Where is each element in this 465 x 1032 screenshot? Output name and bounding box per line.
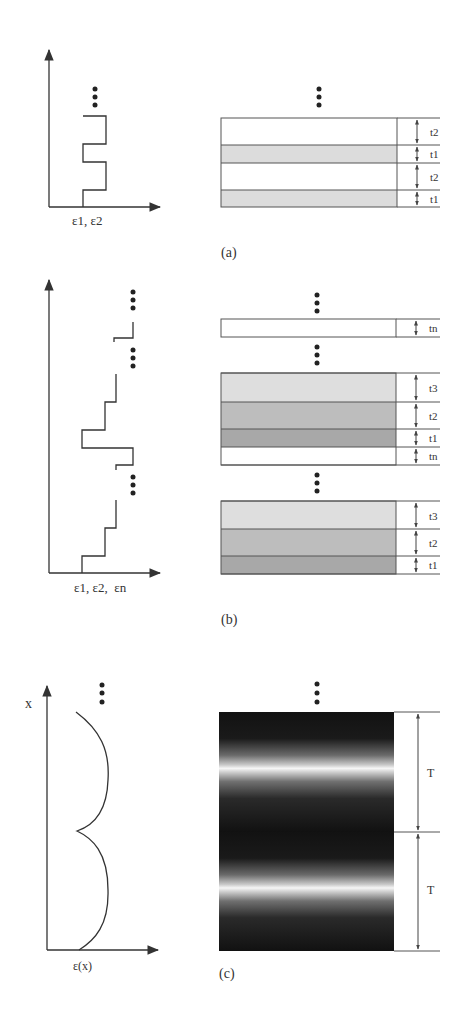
thickness-label: t2 [430, 171, 439, 183]
permittivity-curve [76, 712, 108, 950]
layer-t1 [221, 429, 396, 447]
panel-b-x-axis-label: ε1, ε2, εn [74, 580, 127, 595]
step-profile-middle [82, 374, 133, 470]
thickness-label: t1 [430, 148, 439, 160]
layer-t2 [221, 402, 396, 429]
layer-t1 [221, 556, 396, 574]
step-profile-top [114, 322, 133, 342]
ellipsis-icon [131, 290, 136, 311]
figure-canvas: ε1, ε2 [0, 0, 465, 1032]
ellipsis-icon [317, 87, 322, 108]
caption-a: (a) [221, 245, 237, 261]
thickness-label: tn [429, 450, 438, 462]
layer-t3 [221, 373, 396, 402]
panel-b-layer-stack: tn t3 t2 t1 tn t3 t2 t1 [221, 319, 440, 574]
panel-c: x ε(x) T T [25, 682, 440, 974]
thickness-label: t3 [429, 382, 438, 394]
ellipsis-icon [315, 473, 320, 494]
period-label: T [427, 766, 435, 780]
ellipsis-icon [131, 348, 136, 369]
panel-c-continuous-plot [47, 686, 158, 950]
caption-b: (b) [221, 612, 237, 628]
ellipsis-icon [315, 682, 320, 705]
layer-t2 [221, 529, 396, 556]
panel-b: ε1, ε2, εn [49, 280, 440, 595]
thickness-label: t3 [429, 510, 438, 522]
thickness-label: t2 [430, 126, 439, 138]
layer-t1 [221, 145, 397, 163]
period-label: T [427, 883, 435, 897]
step-profile-lower [82, 500, 116, 573]
ellipsis-icon [315, 293, 320, 314]
thickness-label: t1 [429, 559, 438, 571]
layer-tn [221, 447, 396, 465]
ellipsis-icon [315, 345, 320, 366]
layer-t2 [221, 163, 397, 190]
ellipsis-icon [100, 683, 105, 705]
layer-tn [221, 319, 396, 337]
panel-a: ε1, ε2 [49, 50, 440, 228]
thickness-label: t1 [430, 193, 439, 205]
panel-c-y-axis-label: x [25, 696, 32, 711]
panel-a-step-plot [49, 50, 160, 207]
panel-a-x-axis-label: ε1, ε2 [72, 213, 102, 228]
panel-c-gradient-stack: T T [219, 712, 440, 951]
layer-t2 [221, 118, 397, 145]
thickness-label: t2 [429, 410, 438, 422]
ellipsis-icon [93, 87, 98, 108]
ellipsis-icon [131, 475, 136, 496]
thickness-label: tn [429, 322, 438, 334]
panel-a-layer-stack: t2 t1 t2 t1 [221, 118, 440, 207]
period-block [219, 712, 394, 832]
step-profile [83, 116, 106, 207]
layer-t3 [221, 501, 396, 529]
layer-t1 [221, 190, 397, 207]
period-block [219, 832, 394, 951]
caption-c: (c) [219, 966, 235, 982]
thickness-label: t1 [429, 432, 438, 444]
panel-c-x-axis-label: ε(x) [73, 959, 92, 973]
panel-b-step-plot [49, 280, 160, 573]
thickness-label: t2 [429, 537, 438, 549]
